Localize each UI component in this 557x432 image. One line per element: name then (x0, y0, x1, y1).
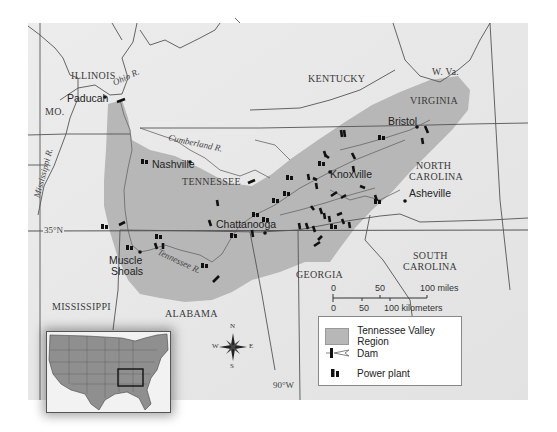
label-virginia: VIRGINIA (410, 95, 458, 106)
compass-s: S (230, 362, 234, 370)
label-tennessee: TENNESSEE (182, 176, 241, 187)
label-latitude-35n: 35°N (43, 225, 64, 235)
legend-label-power-plant: Power plant (357, 368, 410, 379)
scale-km-0: 0 (331, 303, 336, 313)
label-missouri: MO. (45, 106, 65, 117)
label-west-virginia: W. Va. (432, 67, 459, 77)
scale-miles-100: 100 miles (420, 283, 459, 293)
scale-km-50: 50 (359, 303, 369, 313)
compass-n: N (230, 322, 235, 330)
label-chattanooga: Chattanooga (216, 218, 276, 230)
label-alabama: ALABAMA (165, 308, 218, 319)
inset-us-map (46, 331, 171, 413)
legend-item-region: Tennessee Valley Region (325, 325, 461, 347)
label-illinois: ILLINOIS (71, 70, 116, 81)
power-plant-icon (325, 367, 351, 379)
region-swatch-icon (325, 328, 349, 345)
label-paducah: Paducah (67, 92, 108, 104)
label-kentucky: KENTUCKY (308, 73, 365, 84)
label-knoxville: Knoxville (330, 168, 372, 180)
label-asheville: Asheville (409, 187, 451, 199)
label-south-carolina-2: CAROLINA (403, 261, 457, 272)
scale-km-100: 100 kilometers (384, 303, 443, 313)
label-georgia: GEORGIA (296, 269, 343, 280)
tennessee-valley-map: ILLINOIS MO. KENTUCKY W. Va. VIRGINIA TE… (0, 0, 557, 432)
scale-miles-50: 50 (375, 283, 385, 293)
compass-w: W (212, 342, 219, 350)
label-bristol: Bristol (388, 115, 417, 127)
label-mississippi: MISSISSIPPI (52, 301, 111, 312)
label-muscle-shoals-2: Shoals (111, 265, 143, 277)
legend-label-dam: Dam (357, 348, 378, 359)
map-legend: Tennessee Valley Region Dam Power plant (318, 316, 462, 386)
label-nashville: Nashville (152, 158, 195, 170)
scale-miles-0: 0 (331, 283, 336, 293)
compass-e: E (249, 342, 253, 350)
label-south-carolina-1: SOUTH (413, 250, 448, 261)
label-north-carolina-2: CAROLINA (409, 171, 463, 182)
label-longitude-90w: 90°W (273, 380, 294, 390)
legend-label-region: Tennessee Valley Region (357, 325, 461, 347)
legend-item-dam: Dam (325, 347, 378, 359)
dam-icon (325, 347, 351, 359)
us-outline (47, 332, 170, 412)
legend-item-power-plant: Power plant (325, 367, 410, 379)
label-north-carolina-1: NORTH (416, 160, 451, 171)
